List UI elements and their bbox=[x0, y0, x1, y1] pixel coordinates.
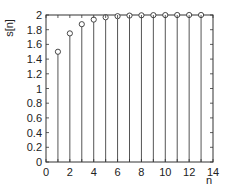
x-tick-label: 0 bbox=[43, 166, 49, 178]
stem-series bbox=[55, 12, 203, 162]
y-tick-label: 0.2 bbox=[27, 141, 42, 153]
x-tick-label: 4 bbox=[91, 166, 97, 178]
y-tick-label: 0.4 bbox=[27, 127, 42, 139]
x-tick-label: 8 bbox=[138, 166, 144, 178]
y-tick-label: 2 bbox=[36, 9, 42, 21]
y-tick-label: 1.4 bbox=[27, 53, 42, 65]
y-axis-label: s[n] bbox=[3, 19, 15, 37]
stem-chart: 02468101214 00.20.40.60.811.21.41.61.82 … bbox=[0, 0, 234, 193]
stem-marker bbox=[55, 49, 60, 54]
x-tick-label: 10 bbox=[159, 166, 171, 178]
y-tick-label: 0 bbox=[36, 156, 42, 168]
y-axis-ticks: 00.20.40.60.811.21.41.61.82 bbox=[27, 9, 213, 168]
y-tick-label: 0.6 bbox=[27, 112, 42, 124]
y-tick-label: 0.8 bbox=[27, 97, 42, 109]
x-tick-label: 12 bbox=[183, 166, 195, 178]
x-tick-label: 6 bbox=[115, 166, 121, 178]
y-tick-label: 1 bbox=[36, 83, 42, 95]
x-axis-label: n bbox=[206, 174, 212, 186]
stem-marker bbox=[79, 22, 84, 27]
y-tick-label: 1.6 bbox=[27, 38, 42, 50]
x-tick-label: 2 bbox=[67, 166, 73, 178]
y-tick-label: 1.8 bbox=[27, 24, 42, 36]
y-tick-label: 1.2 bbox=[27, 68, 42, 80]
stem-marker bbox=[67, 31, 72, 36]
